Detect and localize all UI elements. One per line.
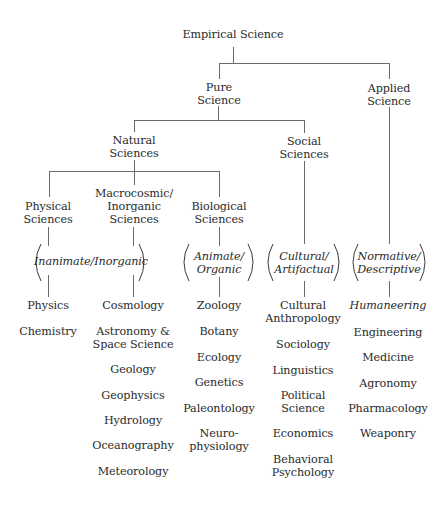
paren-left-animate	[184, 244, 189, 281]
connector-physical-down	[48, 227, 49, 246]
node-applied-line1: Applied	[368, 82, 411, 95]
connector-natural-down	[134, 160, 135, 185]
qualifier-normative-line1: Normative/	[358, 250, 421, 263]
qualifier-cultural-line1: Cultural/	[279, 250, 329, 263]
leaf-astronomy-line1: Astronomy &	[96, 325, 170, 338]
connector-empirical	[233, 47, 234, 63]
paren-right-animate	[248, 244, 253, 281]
connector-applied-down	[389, 107, 390, 244]
leaf-hydrology: Hydrology	[104, 414, 162, 427]
leaf-botany: Botany	[199, 325, 238, 338]
connector-to-social	[304, 120, 305, 133]
leaf-physics: Physics	[27, 299, 69, 312]
connector-bio-down-2	[219, 277, 220, 297]
node-bio-line1: Biological	[191, 200, 246, 213]
connector-bio-down	[219, 227, 220, 246]
node-macro-line2: Inorganic	[107, 200, 161, 213]
connector-natural-branches	[49, 171, 219, 172]
leaf-behavioral-psychology-line2: Psychology	[272, 466, 334, 479]
node-applied-line2: Science	[367, 95, 411, 108]
qualifier-normative-line2: Descriptive	[357, 263, 421, 276]
node-bio-line2: Sciences	[194, 213, 243, 226]
leaf-astronomy-line2: Space Science	[93, 338, 174, 351]
leaf-cosmology: Cosmology	[102, 299, 163, 312]
connector-macro-down	[133, 227, 134, 246]
leaf-neurophysiology-line1: Neuro-	[200, 427, 239, 440]
leaf-cultural-anthropology-line1: Cultural	[280, 299, 326, 312]
paren-right-cultural	[334, 244, 339, 281]
leaf-engineering: Engineering	[354, 326, 423, 339]
node-physical-line2: Sciences	[23, 213, 72, 226]
leaf-political-science-line2: Science	[281, 402, 325, 415]
qualifier-cultural-line2: Artifactual	[274, 263, 333, 276]
connector-to-physical	[49, 171, 50, 197]
leaf-behavioral-psychology-line1: Behavioral	[273, 453, 333, 466]
leaf-humaneering: Humaneering	[350, 299, 427, 312]
leaf-political-science-line1: Political	[281, 389, 326, 402]
connector-pure-down	[218, 106, 219, 120]
node-social-line2: Sciences	[279, 148, 328, 161]
connector-macro-down-2	[133, 275, 134, 297]
leaf-sociology: Sociology	[276, 338, 330, 351]
connector-natural-social	[134, 120, 304, 121]
leaf-zoology: Zoology	[197, 299, 241, 312]
node-macro-line1: Macrocosmic/	[95, 187, 173, 200]
leaf-genetics: Genetics	[195, 376, 244, 389]
leaf-ecology: Ecology	[197, 351, 241, 364]
leaf-agronomy: Agronomy	[359, 377, 416, 390]
qualifier-animate-line2: Organic	[197, 263, 242, 276]
leaf-paleontology: Paleontology	[183, 402, 255, 415]
connector-pure-applied	[219, 63, 389, 64]
connector-to-bio	[219, 171, 220, 197]
qualifier-inanimate: Inanimate/Inorganic	[34, 255, 148, 268]
connector-applied-down-2	[389, 281, 390, 297]
connector-social-down-2	[304, 281, 305, 297]
leaf-economics: Economics	[273, 427, 333, 440]
qualifier-animate-line1: Animate/	[194, 250, 244, 263]
leaf-oceanography: Oceanography	[92, 439, 173, 452]
node-pure-line1: Pure	[206, 81, 232, 94]
node-empirical-science: Empirical Science	[182, 28, 283, 41]
leaf-medicine: Medicine	[362, 351, 414, 364]
node-social-line1: Social	[287, 135, 321, 148]
leaf-geology: Geology	[110, 363, 155, 376]
leaf-meteorology: Meteorology	[98, 465, 169, 478]
leaf-cultural-anthropology-line2: Anthropology	[265, 312, 341, 325]
connector-social-down	[304, 161, 305, 244]
node-natural-line2: Sciences	[109, 147, 158, 160]
leaf-pharmacology: Pharmacology	[348, 402, 428, 415]
node-natural-line1: Natural	[112, 134, 155, 147]
node-physical-line1: Physical	[25, 200, 71, 213]
connector-to-natural	[134, 120, 135, 132]
node-macro-line3: Sciences	[109, 213, 158, 226]
leaf-chemistry: Chemistry	[19, 325, 77, 338]
paren-left-cultural	[268, 244, 273, 281]
leaf-geophysics: Geophysics	[101, 389, 164, 402]
leaf-weaponry: Weaponry	[360, 427, 416, 440]
leaf-linguistics: Linguistics	[273, 364, 334, 377]
leaf-neurophysiology-line2: physiology	[189, 440, 249, 453]
node-pure-line2: Science	[197, 94, 241, 107]
connector-physical-down-2	[48, 275, 49, 297]
connector-to-pure	[219, 63, 220, 79]
connector-to-applied	[389, 63, 390, 79]
